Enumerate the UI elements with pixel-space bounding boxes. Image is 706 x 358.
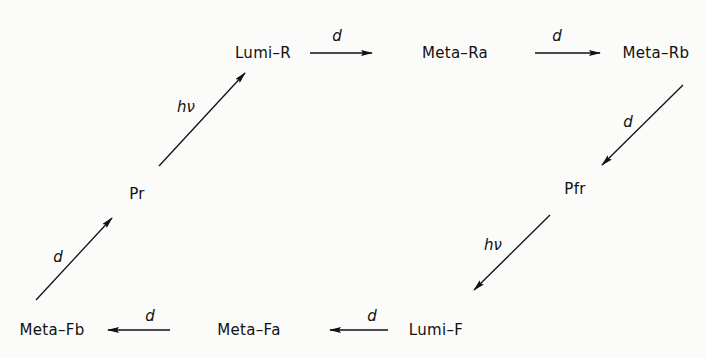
node-pfr: Pfr [564, 180, 585, 198]
node-pr: Pr [129, 185, 145, 203]
arrows-layer [0, 0, 706, 358]
node-lumi-f: Lumi–F [409, 321, 463, 339]
arrow-meta_rb-to-pfr [602, 85, 683, 165]
edge-label-lumi-f-meta-fa: d [367, 307, 377, 325]
arrow-pr-to-lumi_r [159, 73, 245, 166]
node-meta-ra: Meta–Ra [422, 44, 488, 62]
node-meta-rb: Meta–Rb [623, 44, 690, 62]
edge-label-meta-fa-meta-fb: d [145, 307, 155, 325]
edge-label-lumi-r-meta-ra: d [332, 27, 342, 45]
edge-label-meta-ra-meta-rb: d [552, 27, 562, 45]
edge-label-pr-lumi-r: hν [177, 98, 195, 116]
edge-label-meta-fb-pr: d [53, 248, 63, 266]
arrow-meta_fb-to-pr [36, 218, 112, 300]
edge-label-meta-rb-pfr: d [623, 113, 633, 131]
node-lumi-r: Lumi–R [235, 44, 291, 62]
edge-label-pfr-lumi-f: hν [484, 236, 502, 254]
phytochrome-cycle-diagram: Lumi–R Meta–Ra Meta–Rb Pfr Lumi–F Meta–F… [0, 0, 706, 358]
node-meta-fa: Meta–Fa [217, 321, 280, 339]
node-meta-fb: Meta–Fb [20, 321, 85, 339]
